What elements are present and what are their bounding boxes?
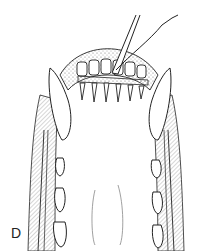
palate-fold [92,190,95,245]
illustration [0,0,210,251]
panel-label: D [11,226,21,240]
